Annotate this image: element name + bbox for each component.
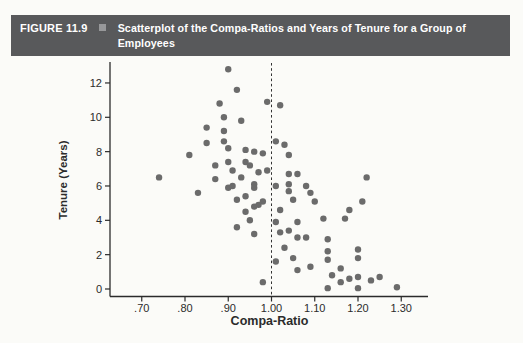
figure-number-label: FIGURE 11.9 bbox=[20, 21, 88, 35]
data-point bbox=[394, 284, 400, 290]
x-tick-label: 1.10 bbox=[304, 302, 325, 314]
data-point bbox=[251, 148, 257, 154]
data-point bbox=[156, 174, 162, 180]
data-point bbox=[251, 231, 257, 237]
figure-title: Scatterplot of the Compa-Ratios and Year… bbox=[118, 21, 502, 51]
data-point bbox=[338, 279, 344, 285]
y-axis-title: Tenure (Years) bbox=[57, 140, 69, 219]
data-point bbox=[363, 174, 369, 180]
data-point bbox=[325, 236, 331, 242]
data-point bbox=[307, 263, 313, 269]
data-point bbox=[277, 207, 283, 213]
data-point bbox=[290, 255, 296, 261]
x-tick-label: .80 bbox=[177, 302, 192, 314]
figure-title-line-2: Employees bbox=[118, 36, 502, 51]
data-point bbox=[355, 246, 361, 252]
y-tick-label: 8 bbox=[96, 146, 102, 158]
data-point bbox=[260, 150, 266, 156]
data-point bbox=[355, 285, 361, 291]
data-point bbox=[346, 207, 352, 213]
data-point bbox=[251, 184, 257, 190]
y-tick-label: 6 bbox=[96, 180, 102, 192]
data-point bbox=[303, 183, 309, 189]
data-point bbox=[346, 275, 352, 281]
data-point bbox=[216, 100, 222, 106]
x-tick-label: 1.20 bbox=[347, 302, 368, 314]
data-point bbox=[286, 188, 292, 194]
data-point bbox=[203, 140, 209, 146]
data-point bbox=[286, 171, 292, 177]
data-point bbox=[242, 209, 248, 215]
data-point bbox=[242, 147, 248, 153]
data-point bbox=[303, 234, 309, 240]
data-point bbox=[221, 114, 227, 120]
y-tick-label: 12 bbox=[90, 77, 102, 89]
data-point bbox=[238, 174, 244, 180]
data-point bbox=[359, 198, 365, 204]
data-point bbox=[277, 229, 283, 235]
data-point bbox=[273, 219, 279, 225]
data-point bbox=[281, 245, 287, 251]
data-point bbox=[294, 171, 300, 177]
data-point bbox=[368, 277, 374, 283]
data-point bbox=[281, 142, 287, 148]
data-point bbox=[325, 285, 331, 291]
data-point bbox=[294, 219, 300, 225]
data-point bbox=[338, 265, 344, 271]
data-point bbox=[320, 215, 326, 221]
data-point bbox=[273, 183, 279, 189]
data-point bbox=[247, 217, 253, 223]
y-tick-label: 2 bbox=[96, 249, 102, 261]
data-point bbox=[195, 190, 201, 196]
data-point bbox=[242, 193, 248, 199]
data-point bbox=[312, 198, 318, 204]
data-point bbox=[342, 215, 348, 221]
data-point bbox=[264, 99, 270, 105]
data-point bbox=[225, 66, 231, 72]
data-point bbox=[238, 118, 244, 124]
figure-panel: 024681012.70.80.901.001.101.201.30Tenure… bbox=[0, 0, 523, 343]
data-point bbox=[229, 167, 235, 173]
data-point bbox=[229, 183, 235, 189]
data-point bbox=[212, 176, 218, 182]
data-point bbox=[329, 272, 335, 278]
data-point bbox=[286, 227, 292, 233]
y-tick-label: 0 bbox=[96, 283, 102, 295]
y-tick-label: 10 bbox=[90, 111, 102, 123]
x-tick-label: .70 bbox=[134, 302, 149, 314]
data-point bbox=[221, 128, 227, 134]
x-axis-title: Compa-Ratio bbox=[231, 314, 309, 328]
data-point bbox=[290, 197, 296, 203]
data-point bbox=[225, 159, 231, 165]
figure-header-bar: FIGURE 11.9 Scatterplot of the Compa-Rat… bbox=[11, 15, 510, 56]
data-point bbox=[286, 181, 292, 187]
data-point bbox=[264, 167, 270, 173]
data-point bbox=[234, 224, 240, 230]
data-point bbox=[247, 162, 253, 168]
data-point bbox=[307, 190, 313, 196]
figure-title-line-1: Scatterplot of the Compa-Ratios and Year… bbox=[118, 21, 502, 36]
data-point bbox=[355, 274, 361, 280]
x-tick-label: 1.30 bbox=[391, 302, 412, 314]
data-point bbox=[225, 145, 231, 151]
data-point bbox=[260, 279, 266, 285]
data-point bbox=[203, 124, 209, 130]
data-point bbox=[273, 258, 279, 264]
data-point bbox=[221, 138, 227, 144]
data-point bbox=[277, 102, 283, 108]
data-point bbox=[234, 197, 240, 203]
square-bullet-icon bbox=[99, 24, 106, 31]
data-point bbox=[234, 87, 240, 93]
data-point bbox=[212, 162, 218, 168]
data-point bbox=[355, 255, 361, 261]
x-tick-label: .90 bbox=[221, 302, 236, 314]
data-point bbox=[186, 152, 192, 158]
data-point bbox=[325, 248, 331, 254]
data-point bbox=[376, 274, 382, 280]
data-point bbox=[273, 138, 279, 144]
x-tick-label: 1.00 bbox=[261, 302, 282, 314]
y-tick-label: 4 bbox=[96, 214, 102, 226]
data-point bbox=[294, 234, 300, 240]
data-point bbox=[325, 257, 331, 263]
data-point bbox=[251, 203, 257, 209]
